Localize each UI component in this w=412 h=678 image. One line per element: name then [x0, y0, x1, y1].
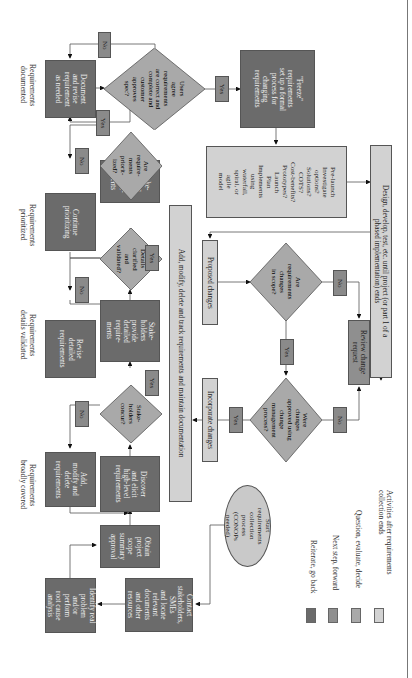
track-requirements-bar: Add, modify, delete and track requiremen… [169, 205, 192, 502]
prelaunch-text: Pre-launch Investigate options? Solution… [217, 162, 337, 202]
users-agree-text: Users agree requirements are correct and… [123, 69, 185, 109]
design-develop-text: Design, develop, test, etc. until projec… [373, 185, 390, 337]
review-change-text: Review change request [351, 330, 368, 374]
proposed-changes-box: Proposed changes [202, 240, 218, 325]
freeze-requirements-box: "Freeze" requirements set up a formal pr… [240, 50, 315, 128]
no-tag-concur: No [75, 401, 89, 427]
continue-prioritizing-text: Continue prioritizing [62, 206, 79, 238]
add-modify-delete-box: Add, modify and delete requirements [45, 452, 96, 507]
obtain-approval-text: Obtain project scope summary approval [109, 533, 151, 560]
legend-swatch-next-step [328, 608, 338, 623]
no-tag-users-agree: No [98, 32, 111, 58]
discover-elicit-text: Discover and elicit high-level requireme… [113, 465, 147, 503]
in-scope-text: Are requirements changes in scope? [270, 264, 301, 299]
identify-problem-box: Identify real problem and/or perform roo… [45, 578, 96, 633]
continue-prioritizing-box: Continue prioritizing [45, 193, 96, 251]
legend-swatch-activities-after [374, 608, 384, 623]
users-agree-decision: Users agree requirements are correct and… [104, 48, 205, 130]
legend-swatch-question [351, 608, 361, 623]
track-requirements-text: Add, modify, delete and track requiremen… [176, 249, 184, 457]
no-tag-prioritized: No [75, 148, 89, 174]
design-develop-box: Design, develop, test, etc. until projec… [370, 145, 392, 378]
start-text: Start requirements collection process (C… [224, 508, 272, 545]
legend-label-reiterate: Reiterate, go back [308, 540, 317, 594]
contact-stakeholders-text: Contact stakeholders, SMEs and locate re… [125, 586, 192, 624]
legend-swatch-reiterate [306, 608, 316, 623]
yes-tag-prioritized: Yes [96, 110, 110, 136]
review-change-request-box: Review change request [348, 320, 370, 385]
document-revise-box: Document and revise requirement as neede… [45, 60, 96, 118]
yes-tag-in-scope: Yes [280, 339, 294, 365]
yes-tag-approved: Yes [229, 407, 243, 433]
in-scope-decision: Are requirements changes in scope? [250, 243, 322, 321]
details-validated-text: Details clarified and validated? [115, 245, 146, 273]
yes-tag-details: Yes [145, 245, 159, 271]
legend-label-activities-after: Activities after requirements collection… [376, 490, 393, 575]
stakeholders-concur-text: Stake- holders concur? [119, 403, 142, 425]
incorporate-changes-box: Incorporate changes [202, 378, 218, 462]
stakeholders-provide-text: Stake- holders provide detailed require-… [105, 320, 155, 343]
freeze-requirements-text: "Freeze" requirements set up a formal pr… [252, 68, 302, 111]
legend-label-question: Question, evaluate, decide [353, 510, 362, 588]
approved-text: Were changes approved using change manag… [263, 399, 310, 441]
prelaunch-box: Pre-launch Investigate options? Solution… [206, 146, 347, 218]
stage-label-broadly-covered: Requirements broadly covered [14, 440, 40, 530]
proposed-changes-text: Proposed changes [206, 257, 214, 309]
no-tag-approved: No [333, 407, 347, 433]
stage-label-details-validated: Requirements details validated [14, 290, 40, 380]
incorporate-changes-text: Incorporate changes [206, 391, 214, 449]
discover-elicit-box: Discover and elicit high-level requireme… [100, 456, 160, 512]
prioritized-text: Are require- ments priorit- ized? [112, 155, 151, 177]
revise-detailed-text: Revise detailed requirements [58, 330, 83, 368]
stage-label-prioritized: Requirements prioritized [14, 180, 40, 270]
start-ellipse: Start requirements collection process (C… [224, 485, 271, 567]
no-tag-in-scope: No [333, 270, 347, 296]
stage-label-documented: Requirements documented [14, 40, 40, 130]
document-revise-text: Document and revise requirement as neede… [54, 72, 88, 107]
contact-stakeholders-box: Contact stakeholders, SMEs and locate re… [125, 578, 193, 632]
add-modify-delete-text: Add, modify and delete requirements [54, 461, 88, 499]
yes-tag-concur: Yes [145, 370, 159, 396]
stakeholders-provide-box: Stake- holders provide detailed require-… [100, 300, 160, 362]
no-tag-details: No [75, 277, 89, 303]
legend-label-next-step: Next step, forward [330, 535, 339, 590]
yes-tag-users-agree: Yes [215, 76, 229, 102]
prioritized-decision: Are require- ments priorit- ized? [100, 132, 162, 200]
revise-detailed-box: Revise detailed requirements [45, 320, 96, 378]
identify-problem-text: Identify real problem and/or perform roo… [45, 588, 95, 623]
approved-decision: Were changes approved using change manag… [250, 378, 322, 462]
obtain-approval-box: Obtain project scope summary approval [100, 525, 160, 568]
